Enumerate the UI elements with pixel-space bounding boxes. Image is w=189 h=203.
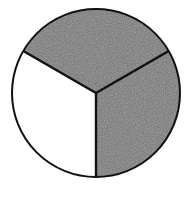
fraction-circle-diagram — [0, 0, 189, 203]
